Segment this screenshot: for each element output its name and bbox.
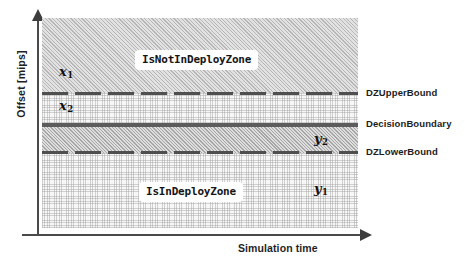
marker-y2: y2 bbox=[314, 131, 327, 146]
marker-y2-base: y bbox=[314, 131, 322, 146]
dz-lower-bound-line bbox=[42, 151, 358, 154]
marker-x2: x2 bbox=[59, 98, 73, 113]
x-axis-label: Simulation time bbox=[238, 242, 318, 254]
deploy-zone-diagram: Offset [mips] Simulation time IsNotInDep… bbox=[0, 0, 465, 266]
label-dz-upper-bound: DZUpperBound bbox=[366, 87, 437, 98]
marker-x1-subscript: 1 bbox=[67, 70, 73, 80]
plot-area: IsNotInDeployZone IsInDeployZone x1 x2 y… bbox=[42, 18, 358, 228]
marker-y1: y1 bbox=[314, 181, 327, 196]
band-x2-region bbox=[42, 93, 358, 125]
dz-upper-bound-line bbox=[42, 92, 358, 95]
marker-x2-subscript: 2 bbox=[67, 104, 73, 114]
label-decision-boundary: DecisionBoundary bbox=[366, 118, 452, 129]
marker-y1-base: y bbox=[314, 181, 322, 196]
band-y2-region bbox=[42, 125, 358, 153]
y-axis-label: Offset [mips] bbox=[15, 29, 27, 139]
marker-x1-base: x bbox=[59, 64, 67, 79]
marker-y1-subscript: 1 bbox=[322, 187, 328, 197]
marker-x1: x1 bbox=[59, 64, 73, 79]
y-axis-line bbox=[37, 20, 39, 236]
marker-y2-subscript: 2 bbox=[322, 137, 328, 147]
x-axis-line bbox=[22, 234, 362, 236]
marker-x2-base: x bbox=[59, 98, 67, 113]
zone-label-is-not-in-deploy-zone: IsNotInDeployZone bbox=[135, 50, 258, 70]
zone-label-is-in-deploy-zone: IsInDeployZone bbox=[139, 182, 243, 202]
decision-boundary-line bbox=[42, 123, 358, 127]
x-axis-arrow-icon bbox=[360, 229, 372, 241]
label-dz-lower-bound: DZLowerBound bbox=[366, 146, 438, 157]
